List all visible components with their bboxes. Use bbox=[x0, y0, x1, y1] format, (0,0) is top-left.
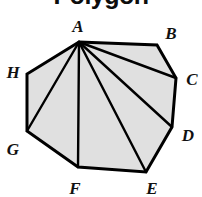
vertex-label-a: A bbox=[72, 18, 83, 35]
diagonal-a-f bbox=[78, 42, 79, 167]
polygon-figure: Polygon A B C D E F G H bbox=[0, 0, 202, 197]
vertex-label-b: B bbox=[165, 25, 176, 42]
vertex-label-d: D bbox=[182, 127, 194, 144]
vertex-label-f: F bbox=[69, 180, 80, 197]
vertex-label-e: E bbox=[146, 180, 157, 197]
vertex-label-g: G bbox=[7, 141, 19, 158]
vertex-label-h: H bbox=[6, 64, 19, 81]
vertex-label-c: C bbox=[186, 71, 197, 88]
